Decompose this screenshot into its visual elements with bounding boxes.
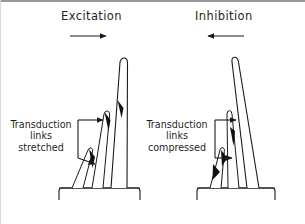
figure-canvas: Excitation Inhibition Transduction links… (0, 0, 305, 224)
inhibition-panel-drawing (197, 57, 275, 200)
excitation-panel-drawing (59, 58, 140, 200)
cell-body-icon (59, 188, 140, 200)
stereocilium-icon (227, 111, 239, 188)
diagram-vector (0, 0, 305, 224)
stereocilium-icon (72, 148, 93, 188)
cell-body-icon (197, 188, 275, 200)
stereocilium-icon (111, 58, 128, 188)
